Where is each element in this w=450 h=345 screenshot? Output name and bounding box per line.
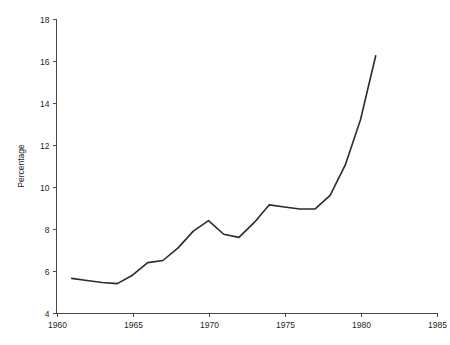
x-tick-label: 1970 <box>200 320 219 330</box>
chart-background <box>0 0 450 345</box>
x-tick-label: 1985 <box>428 320 447 330</box>
x-tick-label: 1975 <box>276 320 295 330</box>
y-tick-label: 16 <box>40 57 50 67</box>
y-axis-title: Percentage <box>16 144 26 188</box>
y-tick-label: 4 <box>45 309 50 319</box>
y-tick-label: 6 <box>45 267 50 277</box>
y-tick-label: 12 <box>40 141 50 151</box>
y-tick-label: 10 <box>40 183 50 193</box>
line-chart-figure: 4681012141618 Percentage 196019651970197… <box>0 0 450 345</box>
y-tick-label: 14 <box>40 99 50 109</box>
chart-plot-area: 4681012141618 Percentage 196019651970197… <box>0 0 450 345</box>
x-tick-label: 1960 <box>48 320 67 330</box>
x-tick-label: 1980 <box>352 320 371 330</box>
x-tick-label: 1965 <box>124 320 143 330</box>
y-tick-label: 18 <box>40 15 50 25</box>
y-tick-label: 8 <box>45 225 50 235</box>
